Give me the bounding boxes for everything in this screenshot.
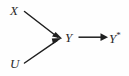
edge-y-to-ystar-arrowhead [101,33,109,41]
edge-x-to-y [25,12,63,39]
edge-u-to-y-line [25,41,58,63]
causal-diagram: X U Y Y* [0,0,129,76]
node-label-ystar: Y* [109,31,121,45]
node-label-y: Y [65,31,72,44]
edge-x-to-y-line [25,12,58,38]
node-label-u-text: U [10,56,19,71]
node-label-x: X [10,4,18,17]
edge-u-to-y [25,38,63,63]
node-label-u: U [10,57,19,70]
node-label-ystar-superscript: * [116,30,121,40]
node-label-y-text: Y [65,30,72,45]
edge-y-to-ystar [79,33,109,41]
edge-u-to-y-arrowhead [52,38,62,44]
node-label-x-text: X [10,3,18,18]
